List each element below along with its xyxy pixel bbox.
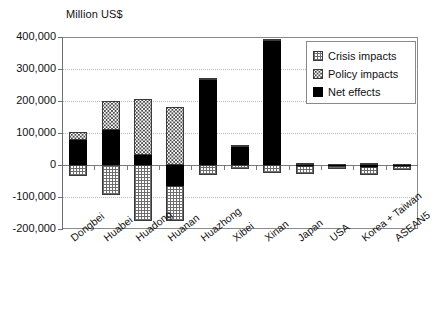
y-axis-tick [58, 37, 63, 38]
y-axis-tick-label: -200,000 [0, 222, 56, 234]
bar-group [134, 37, 152, 229]
x-axis-tick [94, 165, 95, 170]
bar-group [102, 37, 120, 229]
legend-item[interactable]: Policy impacts [313, 65, 415, 83]
legend-label: Net effects [328, 86, 380, 98]
y-axis-tick [58, 133, 63, 134]
bar-segment-crisis-impacts [102, 165, 120, 195]
bar-segment-net-effects [231, 147, 249, 165]
bar-segment-crisis-impacts [231, 165, 249, 169]
bar-group [166, 37, 184, 229]
bar-group [199, 37, 217, 229]
x-axis-tick [159, 165, 160, 170]
x-axis-tick [191, 165, 192, 170]
legend-swatch-net-icon [313, 87, 323, 97]
y-axis-tick [58, 229, 63, 230]
legend-label: Policy impacts [328, 68, 398, 80]
y-axis-tick [58, 197, 63, 198]
bar-segment-net-effects [134, 155, 152, 165]
bar-segment-policy-impacts [231, 145, 249, 148]
y-axis-tick-label: -100,000 [0, 190, 56, 202]
bar-segment-net-effects [263, 41, 281, 165]
bar-segment-crisis-impacts [263, 165, 281, 173]
x-axis-tick [224, 165, 225, 170]
legend-swatch-policy-icon [313, 69, 323, 79]
chart-legend: Crisis impactsPolicy impactsNet effects [306, 41, 416, 104]
x-axis-tick [256, 165, 257, 170]
bar-group [263, 37, 281, 229]
legend-label: Crisis impacts [328, 50, 396, 62]
bar-segment-net-effects [102, 130, 120, 165]
y-axis-tick-label: 400,000 [0, 30, 56, 42]
y-axis-tick-label: 200,000 [0, 94, 56, 106]
bar-segment-crisis-impacts [360, 167, 378, 175]
legend-item[interactable]: Crisis impacts [313, 47, 415, 65]
chart-axis-title: Million US$ [66, 8, 123, 20]
bar-group [69, 37, 87, 229]
bar-segment-policy-impacts [263, 39, 281, 41]
bar-segment-crisis-impacts [134, 165, 152, 221]
bar-group [231, 37, 249, 229]
bar-segment-crisis-impacts [328, 166, 346, 170]
y-axis-tick [58, 101, 63, 102]
bar-segment-policy-impacts [199, 78, 217, 80]
x-axis-tick [321, 165, 322, 170]
bar-segment-policy-impacts [134, 99, 152, 155]
bar-segment-crisis-impacts [393, 166, 411, 170]
x-axis-tick [127, 165, 128, 170]
bar-segment-net-effects [69, 140, 87, 165]
bar-segment-policy-impacts [69, 132, 87, 140]
legend-item[interactable]: Net effects [313, 83, 415, 101]
bar-segment-policy-impacts [166, 107, 184, 165]
bar-segment-crisis-impacts [296, 166, 314, 174]
y-axis-tick-label: 300,000 [0, 62, 56, 74]
x-axis-tick [386, 165, 387, 170]
x-axis-tick [289, 165, 290, 170]
bar-segment-net-effects [166, 165, 184, 186]
bar-segment-policy-impacts [102, 101, 120, 130]
y-axis-tick [58, 165, 63, 166]
bar-segment-crisis-impacts [199, 165, 217, 175]
legend-swatch-crisis-icon [313, 51, 323, 61]
x-axis-tick [353, 165, 354, 170]
y-axis-tick-label: 0 [0, 158, 56, 170]
chart-figure: Million US$ 400,000300,000200,000100,000… [0, 0, 435, 316]
y-axis-tick-label: 100,000 [0, 126, 56, 138]
bar-segment-net-effects [199, 80, 217, 165]
y-axis-tick [58, 69, 63, 70]
bar-segment-crisis-impacts [69, 165, 87, 176]
